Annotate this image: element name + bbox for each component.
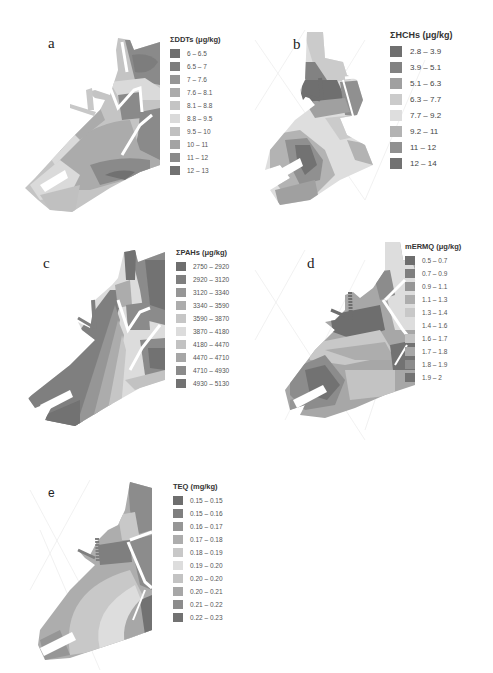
- legend-swatch: [173, 561, 183, 570]
- legend-item: 0.7 – 0.9: [405, 267, 461, 280]
- legend-swatch: [390, 62, 402, 73]
- legend-swatch: [176, 366, 186, 375]
- legend-swatch: [170, 140, 180, 149]
- legend-swatch: [176, 262, 186, 271]
- legend-item: 0.18 – 0.19: [173, 546, 223, 559]
- legend-swatch: [170, 62, 180, 71]
- legend-label: 6.3 – 7.7: [410, 95, 441, 104]
- legend-swatch: [390, 78, 402, 89]
- legend-swatch: [405, 373, 415, 382]
- legend-rows-pahs: 2750 – 29202920 – 31203120 – 33403340 – …: [176, 260, 229, 390]
- legend-swatch: [405, 347, 415, 356]
- legend-ddts: ΣDDTs (μg/kg) 6 – 6.56.5 – 77 – 7.67.6 –…: [170, 35, 221, 177]
- legend-label: 11 – 12: [187, 154, 208, 161]
- legend-label: 1.3 – 1.4: [422, 309, 447, 316]
- legend-label: 3870 – 4180: [193, 328, 229, 335]
- legend-swatch: [176, 353, 186, 362]
- legend-label: 0.19 – 0.20: [190, 562, 223, 569]
- panel-letter-a: a: [48, 35, 55, 52]
- legend-label: 4180 – 4470: [193, 341, 229, 348]
- legend-item: 3120 – 3340: [176, 286, 229, 299]
- panel-letter-b: b: [293, 36, 301, 53]
- legend-label: 1.1 – 1.3: [422, 296, 447, 303]
- panel-letter-e: e: [48, 486, 55, 500]
- legend-swatch: [170, 153, 180, 162]
- legend-label: 7 – 7.6: [187, 76, 207, 83]
- legend-title-mermq: mERMQ (μg/kg): [405, 242, 461, 251]
- panel-d-mermq-map: d mERMQ (μg/kg) 0.5 – 0.70.7 – 0.90.9 – …: [245, 230, 493, 470]
- legend-item: 6 – 6.5: [170, 47, 221, 60]
- legend-label: 0.18 – 0.19: [190, 549, 223, 556]
- legend-item: 0.19 – 0.20: [173, 559, 223, 572]
- legend-label: 0.15 – 0.15: [190, 497, 223, 504]
- legend-label: 9.5 – 10: [187, 128, 211, 135]
- legend-mermq: mERMQ (μg/kg) 0.5 – 0.70.7 – 0.90.9 – 1.…: [405, 242, 461, 384]
- legend-swatch: [390, 126, 402, 137]
- legend-item: 5.1 – 6.3: [390, 75, 452, 91]
- legend-swatch: [173, 496, 183, 505]
- legend-item: 9.2 – 11: [390, 123, 452, 139]
- legend-label: 2750 – 2920: [193, 263, 229, 270]
- legend-swatch: [170, 88, 180, 97]
- legend-item: 1.6 – 1.7: [405, 332, 461, 345]
- legend-label: 0.15 – 0.16: [190, 510, 223, 517]
- legend-title-teq: TEQ (mg/kg): [173, 482, 223, 491]
- legend-swatch: [173, 548, 183, 557]
- legend-rows-teq: 0.15 – 0.150.15 – 0.160.16 – 0.170.17 – …: [173, 494, 223, 624]
- legend-label: 4710 – 4930: [193, 367, 229, 374]
- legend-item: 7.6 – 8.1: [170, 86, 221, 99]
- legend-item: 0.21 – 0.22: [173, 598, 223, 611]
- legend-item: 4470 – 4710: [176, 351, 229, 364]
- legend-swatch: [173, 574, 183, 583]
- legend-swatch: [390, 142, 402, 153]
- legend-label: 11 – 12: [410, 143, 436, 152]
- legend-label: 6 – 6.5: [187, 50, 207, 57]
- legend-label: 7.6 – 8.1: [187, 89, 212, 96]
- legend-label: 8.8 – 9.5: [187, 115, 212, 122]
- legend-item: 6.3 – 7.7: [390, 91, 452, 107]
- legend-label: 0.22 – 0.23: [190, 614, 223, 621]
- legend-label: 0.20 – 0.21: [190, 588, 223, 595]
- legend-swatch: [173, 587, 183, 596]
- legend-item: 3870 – 4180: [176, 325, 229, 338]
- legend-label: 10 – 11: [187, 141, 208, 148]
- legend-item: 0.15 – 0.15: [173, 494, 223, 507]
- legend-item: 6.5 – 7: [170, 60, 221, 73]
- legend-item: 7.7 – 9.2: [390, 107, 452, 123]
- legend-label: 1.7 – 1.8: [422, 348, 447, 355]
- legend-swatch: [173, 535, 183, 544]
- legend-rows-mermq: 0.5 – 0.70.7 – 0.90.9 – 1.11.1 – 1.31.3 …: [405, 254, 461, 384]
- legend-swatch: [390, 46, 402, 57]
- legend-item: 11 – 12: [170, 151, 221, 164]
- legend-item: 3590 – 3870: [176, 312, 229, 325]
- legend-item: 11 – 12: [390, 139, 452, 155]
- legend-label: 12 – 14: [410, 159, 437, 168]
- legend-item: 1.8 – 1.9: [405, 358, 461, 371]
- legend-label: 1.9 – 2: [422, 374, 442, 381]
- legend-swatch: [170, 114, 180, 123]
- legend-label: 0.20 – 0.20: [190, 575, 223, 582]
- legend-item: 0.9 – 1.1: [405, 280, 461, 293]
- legend-item: 0.20 – 0.21: [173, 585, 223, 598]
- legend-item: 1.3 – 1.4: [405, 306, 461, 319]
- legend-item: 1.1 – 1.3: [405, 293, 461, 306]
- legend-swatch: [405, 321, 415, 330]
- legend-swatch: [176, 288, 186, 297]
- legend-swatch: [173, 613, 183, 622]
- legend-label: 0.5 – 0.7: [422, 257, 447, 264]
- legend-teq: TEQ (mg/kg) 0.15 – 0.150.15 – 0.160.16 –…: [173, 482, 223, 624]
- legend-label: 1.8 – 1.9: [422, 361, 447, 368]
- legend-swatch: [405, 282, 415, 291]
- legend-item: 1.7 – 1.8: [405, 345, 461, 358]
- legend-swatch: [173, 600, 183, 609]
- legend-item: 2920 – 3120: [176, 273, 229, 286]
- legend-label: 4470 – 4710: [193, 354, 229, 361]
- legend-label: 1.4 – 1.6: [422, 322, 447, 329]
- legend-item: 0.15 – 0.16: [173, 507, 223, 520]
- legend-label: 5.1 – 6.3: [410, 79, 441, 88]
- legend-title-hchs: ΣHCHs (μg/kg): [390, 30, 452, 40]
- legend-item: 10 – 11: [170, 138, 221, 151]
- legend-label: 3.9 – 5.1: [410, 63, 441, 72]
- legend-swatch: [176, 340, 186, 349]
- legend-item: 3340 – 3590: [176, 299, 229, 312]
